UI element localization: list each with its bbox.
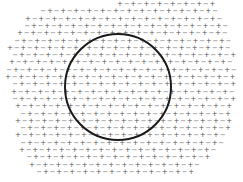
circle-outline <box>65 34 171 140</box>
charge-field-diagram: +−+−+−+−+−+−+−+−+−+−+−+−+−+−+−+−+−+−+−+−… <box>0 0 243 182</box>
circular-boundary <box>0 0 243 182</box>
